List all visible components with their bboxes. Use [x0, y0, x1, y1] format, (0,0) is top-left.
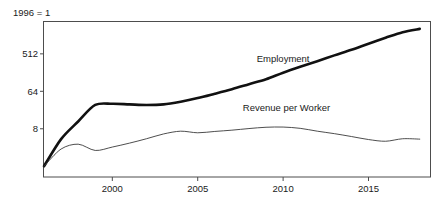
chart-page: 1996 = 1 512648 2000200520102015 Employm… [0, 0, 446, 211]
series-label-employment: Employment [257, 53, 310, 64]
y-axis-tick-labels: 512648 [22, 48, 38, 134]
y-tick-label: 512 [22, 48, 38, 59]
axis-tickmarks [40, 54, 369, 181]
x-tick-label: 2005 [187, 183, 208, 194]
y-tick-label: 64 [27, 86, 38, 97]
series-line-employment [44, 29, 420, 166]
series-line-revenue-per-worker [44, 127, 420, 166]
x-tick-label: 2000 [102, 183, 123, 194]
index-base-note: 1996 = 1 [13, 7, 50, 18]
x-tick-label: 2010 [273, 183, 294, 194]
x-axis-tick-labels: 2000200520102015 [102, 183, 379, 194]
y-tick-label: 8 [33, 123, 38, 134]
line-chart: 1996 = 1 512648 2000200520102015 Employm… [0, 0, 446, 211]
x-tick-label: 2015 [358, 183, 379, 194]
plot-frame [44, 22, 431, 178]
series-paths [44, 29, 420, 166]
series-label-revenue-per-worker: Revenue per Worker [243, 102, 330, 113]
